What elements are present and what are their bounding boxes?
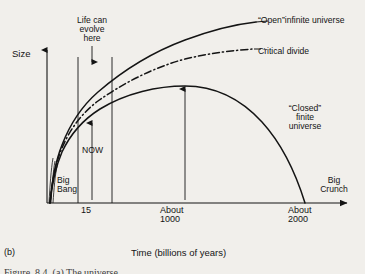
figure-panel-b: Size Life can evolve here “Open”infinite… [0,0,365,274]
now-label: NOW [82,146,103,155]
big-crunch-label: Big Crunch [316,176,352,194]
x-tick-label-15: 15 [81,206,91,215]
big-bang-label: Big Bang [57,176,87,194]
panel-label: (b) [4,248,15,257]
life-can-evolve-label: Life can evolve here [64,16,120,43]
cosmology-expansion-chart [0,0,365,274]
figure-caption-partial: Figure 8.4 (a) The universe [4,267,154,274]
critical-divide-label: Critical divide [258,47,309,56]
x-tick-label-1000: About 1000 [160,206,208,225]
x-tick-label-2000: About 2000 [288,206,336,225]
closed-universe-label: “Closed” finite universe [276,104,334,131]
x-axis-label: Time (billions of years) [131,248,226,258]
y-axis-label: Size [12,49,30,59]
open-universe-label: “Open”infinite universe [258,16,344,25]
